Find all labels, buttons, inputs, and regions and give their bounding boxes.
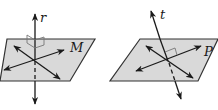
line-t-lower <box>175 81 181 99</box>
label-r: r <box>40 10 47 25</box>
figure-right: t P <box>110 7 218 99</box>
line-t-upper <box>151 11 160 39</box>
diagram-canvas: r M t P <box>0 0 218 110</box>
figure-left: r M <box>0 10 95 104</box>
label-t: t <box>160 7 166 22</box>
label-p: P <box>203 44 213 59</box>
label-m: M <box>69 40 84 55</box>
